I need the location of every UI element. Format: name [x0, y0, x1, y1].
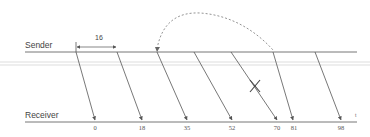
interval-label: 16 [95, 34, 103, 41]
tick-label: 70 [274, 124, 281, 131]
timing-diagram: Sender Receiver 16 0 18 35 52 70 81 98 t [0, 0, 370, 137]
receiver-label: Receiver [25, 110, 59, 120]
retransmission-dashed-arc [157, 13, 273, 50]
tick-label: 98 [338, 124, 345, 131]
tick-label: 18 [139, 124, 146, 131]
tick-label: 81 [291, 124, 298, 131]
arc-arrowhead [155, 47, 160, 52]
loss-x-icon [250, 80, 260, 92]
sender-label: Sender [25, 40, 52, 50]
tick-label: 35 [184, 124, 191, 131]
tick-label: 0 [93, 124, 96, 131]
tick-label: 52 [229, 124, 236, 131]
time-axis-label: t [355, 112, 357, 118]
